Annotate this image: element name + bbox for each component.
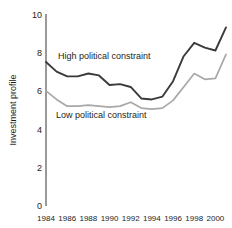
y-tick-label: 10 bbox=[32, 10, 42, 20]
series-group bbox=[46, 27, 226, 109]
annotation-low-political-constraint: Low political constraint bbox=[56, 110, 147, 120]
series-annotations: High political constraint Low political … bbox=[56, 51, 151, 120]
y-tick-label: 6 bbox=[37, 86, 42, 96]
x-tick-label: 1992 bbox=[122, 214, 140, 223]
investment-profile-chart: 10 8 6 4 2 0 Investment profile High pol… bbox=[0, 0, 232, 228]
x-tick-label: 1988 bbox=[79, 214, 97, 223]
chart-canvas: 10 8 6 4 2 0 Investment profile High pol… bbox=[0, 0, 232, 228]
x-tick-label: 1996 bbox=[164, 214, 182, 223]
y-tick-label: 0 bbox=[37, 201, 42, 211]
series-line-high-political-constraint bbox=[46, 27, 226, 99]
y-tick-label: 8 bbox=[37, 48, 42, 58]
x-tick-label: 1990 bbox=[101, 214, 119, 223]
y-tick-label: 4 bbox=[37, 125, 42, 135]
x-tick-label: 1994 bbox=[143, 214, 161, 223]
y-tick-labels: 10 8 6 4 2 0 bbox=[32, 10, 42, 211]
x-tick-label: 1986 bbox=[58, 214, 76, 223]
series-line-low-political-constraint bbox=[46, 54, 226, 109]
x-tick-label: 1984 bbox=[37, 214, 55, 223]
y-axis-title: Investment profile bbox=[8, 74, 18, 145]
x-axis-group: 198419861988199019921994199619982000 bbox=[37, 214, 225, 223]
x-tick-label: 2000 bbox=[207, 214, 225, 223]
y-tick-label: 2 bbox=[37, 163, 42, 173]
y-axis-group: 10 8 6 4 2 0 Investment profile bbox=[8, 10, 46, 211]
x-tick-labels: 198419861988199019921994199619982000 bbox=[37, 214, 225, 223]
x-tick-label: 1998 bbox=[185, 214, 203, 223]
annotation-high-political-constraint: High political constraint bbox=[58, 51, 151, 61]
